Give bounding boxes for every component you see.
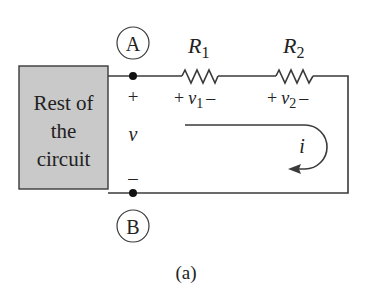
port-voltage-minus: –	[127, 167, 138, 188]
current-loop-path	[185, 125, 327, 169]
r2-label: R2	[282, 33, 304, 61]
block-label-line-3: circuit	[37, 147, 91, 171]
port-voltage-symbol: v	[129, 123, 138, 145]
circuit-diagram: Rest of the circuit A B + v – R1 +v1–	[0, 0, 371, 296]
node-b-dot	[129, 189, 137, 197]
rest-of-circuit-block: Rest of the circuit	[19, 66, 108, 189]
node-b-label: B	[126, 216, 139, 238]
resistor-r2-symbol	[276, 70, 313, 83]
v2-label: +v2–	[267, 88, 309, 111]
block-label-line-1: Rest of	[33, 91, 93, 115]
wires	[108, 70, 348, 193]
node-a: A	[117, 27, 149, 80]
current-label: i	[299, 135, 305, 157]
figure-caption: (a)	[175, 262, 196, 284]
wire-right-and-bottom	[108, 76, 348, 193]
block-label-line-2: the	[51, 119, 77, 143]
node-b: B	[117, 189, 149, 242]
v1-label: +v1–	[174, 88, 216, 111]
node-a-label: A	[126, 33, 141, 55]
port-voltage: + v –	[127, 86, 138, 188]
resistor-r1-symbol	[182, 70, 218, 83]
current-arrow: i	[185, 125, 327, 174]
node-a-dot	[129, 72, 137, 80]
port-voltage-plus: +	[128, 86, 139, 107]
r1-label: R1	[187, 33, 209, 61]
